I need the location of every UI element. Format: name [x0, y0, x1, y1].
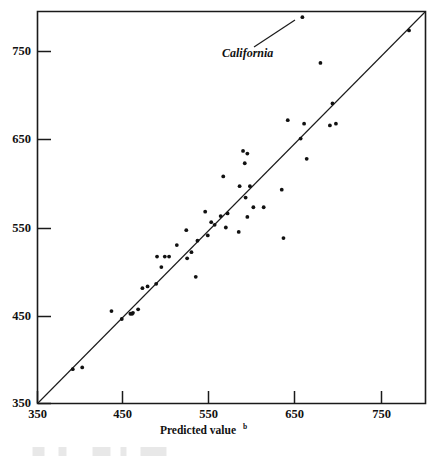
data-point — [282, 236, 286, 240]
x-tick-label-350: 350 — [28, 407, 47, 421]
y-tick-label-650: 650 — [12, 132, 31, 146]
x-tick-label-450: 450 — [113, 407, 132, 421]
data-point — [141, 286, 145, 290]
data-point — [80, 366, 84, 370]
data-point — [328, 124, 332, 128]
data-point — [206, 234, 210, 238]
data-point — [226, 212, 230, 216]
x-tick-label-650: 650 — [285, 407, 304, 421]
x-tick-labels: 350 450 550 650 750 — [28, 407, 391, 421]
data-point — [237, 230, 241, 234]
data-point — [245, 152, 249, 156]
data-point — [196, 239, 200, 243]
data-point — [194, 275, 198, 279]
data-point — [184, 228, 188, 232]
figure-page: 350 450 550 650 750 350 450 550 650 750 — [0, 0, 439, 456]
x-tick-label-750: 750 — [372, 407, 391, 421]
data-point — [238, 184, 242, 188]
data-point — [248, 184, 252, 188]
data-points-layer — [71, 15, 411, 371]
data-point — [251, 205, 255, 209]
data-point — [241, 149, 245, 153]
identity-reference-line — [38, 12, 426, 404]
scatter-plot-svg: 350 450 550 650 750 350 450 550 650 750 — [0, 0, 439, 456]
y-tick-labels: 350 450 550 650 750 — [12, 44, 31, 410]
x-tick-label-550: 550 — [199, 407, 218, 421]
y-tick-label-450: 450 — [12, 309, 31, 323]
data-point — [71, 367, 75, 371]
data-point — [305, 157, 309, 161]
data-point — [319, 61, 323, 65]
california-annotation-label: California — [222, 46, 273, 60]
data-point — [224, 226, 228, 230]
x-axis-ticks — [38, 391, 382, 403]
data-point — [120, 317, 124, 321]
data-point — [262, 205, 266, 209]
data-point-california — [300, 15, 304, 19]
x-axis-title-text: Predicted value — [160, 424, 236, 436]
data-point — [302, 122, 306, 126]
data-point — [243, 161, 247, 165]
data-point — [175, 243, 179, 247]
data-point — [244, 196, 248, 200]
y-tick-label-550: 550 — [12, 221, 31, 235]
y-axis-ticks — [38, 52, 51, 404]
data-point — [154, 282, 158, 286]
data-point — [407, 28, 411, 32]
data-point — [185, 256, 189, 260]
scatter-plot-figure: 350 450 550 650 750 350 450 550 650 750 — [0, 0, 439, 456]
data-point — [203, 210, 207, 214]
data-point — [167, 255, 171, 259]
data-point — [221, 175, 225, 179]
x-axis-title-superscript: b — [243, 422, 247, 431]
data-point — [209, 220, 213, 224]
data-point — [299, 137, 303, 141]
data-point — [219, 214, 223, 218]
data-point — [163, 255, 167, 259]
data-point — [190, 250, 194, 254]
california-leader-line — [254, 20, 295, 47]
data-point — [159, 265, 163, 269]
data-point — [155, 255, 159, 259]
data-point — [213, 223, 217, 227]
data-point — [146, 285, 150, 289]
data-point — [331, 102, 335, 106]
data-point — [128, 312, 132, 316]
data-point — [280, 188, 284, 192]
data-point — [334, 122, 338, 126]
data-point — [286, 118, 290, 122]
data-point — [110, 309, 114, 313]
x-axis-title: Predicted value b — [160, 422, 247, 436]
data-point — [245, 215, 249, 219]
data-point — [136, 307, 140, 311]
y-tick-label-750: 750 — [12, 44, 31, 58]
